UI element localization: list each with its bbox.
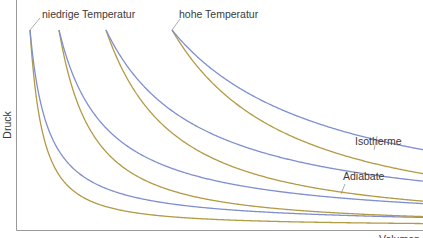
isotherm-curve-4 [172,30,423,150]
low-temperature-leader [30,18,40,30]
high-temperature-label: hohe Temperatur [179,8,259,20]
high-temperature-leader [172,19,180,30]
isotherm-label: Isotherme [355,135,402,147]
curves-group [30,30,423,224]
adiabat-label: Adiabate [343,170,385,182]
isotherm-curve-1 [30,30,423,217]
y-axis-label: Druck [1,111,13,139]
adiabat-curve-4 [172,30,423,174]
x-axis-label: Volumen [379,233,420,238]
isotherm-curve-3 [106,30,423,181]
pv-diagram: niedrige Temperatur hohe Temperatur Isot… [0,0,423,238]
low-temperature-label: niedrige Temperatur [42,8,136,20]
adiabat-curve-2 [59,30,423,217]
